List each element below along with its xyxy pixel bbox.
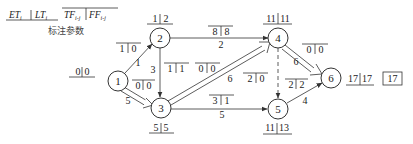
legend-tf: TFi-j [64,10,81,21]
svg-text:0: 0 [211,63,216,74]
svg-text:5: 5 [164,122,169,133]
project-duration-box: 17 [383,72,402,85]
legend: ETi LTi TFi-j FFi-j 标注参数 [6,8,118,36]
node-2: 2 [150,28,170,48]
node-4: 4 [268,28,288,48]
node-2-times: 1 2 [147,13,173,24]
activity-2-3-label: 3 1 1 [151,63,190,75]
svg-text:3: 3 [213,95,218,106]
activity-3-5-label: 3 1 5 [209,95,234,120]
svg-text:3: 3 [158,102,164,114]
legend-et: ETi [8,10,22,21]
svg-text:3: 3 [151,64,156,75]
node-5-times: 11 13 [263,122,292,134]
svg-text:8: 8 [213,26,218,37]
svg-text:6: 6 [228,73,233,84]
svg-text:0: 0 [199,63,204,74]
svg-text:0: 0 [147,80,152,91]
node-1-times: 0 0 [69,66,95,77]
svg-text:2: 2 [219,39,224,50]
svg-text:6: 6 [294,56,299,67]
svg-text:17: 17 [362,73,372,84]
svg-text:1: 1 [153,13,158,24]
node-5: 5 [268,99,288,119]
svg-text:5: 5 [126,95,131,106]
svg-text:2: 2 [300,79,305,90]
svg-text:0: 0 [136,80,141,91]
svg-text:1: 1 [120,43,125,54]
svg-text:17: 17 [388,73,398,84]
svg-text:17: 17 [348,73,358,84]
svg-text:2: 2 [289,79,294,90]
svg-text:1: 1 [225,95,230,106]
svg-text:13: 13 [279,122,289,133]
svg-text:0: 0 [319,44,324,55]
activity-1-2-label: 1 0 1 [116,43,141,68]
svg-text:2: 2 [164,13,169,24]
node-6-times: 17 17 [346,73,374,85]
node-1: 1 [108,71,128,91]
svg-text:11: 11 [265,122,275,133]
legend-ff: FFi-j [88,10,106,21]
svg-text:0: 0 [132,43,137,54]
svg-text:1: 1 [168,63,173,74]
svg-text:1: 1 [115,75,121,87]
network-diagram: ETi LTi TFi-j FFi-j 标注参数 1 [0,0,413,144]
svg-text:0: 0 [76,66,81,77]
node-3: 3 [151,98,171,118]
node-6: 6 [321,68,341,88]
svg-text:1: 1 [180,63,185,74]
svg-text:4: 4 [275,32,281,44]
svg-text:4: 4 [303,95,308,106]
svg-text:0: 0 [260,73,265,84]
svg-text:5: 5 [275,103,281,115]
svg-text:0: 0 [85,66,90,77]
svg-text:6: 6 [328,72,334,84]
svg-text:8: 8 [225,26,230,37]
svg-text:11: 11 [280,13,290,24]
svg-text:2: 2 [248,73,253,84]
svg-text:5: 5 [220,109,225,120]
legend-caption: 标注参数 [48,25,84,36]
svg-text:1: 1 [136,57,141,68]
legend-lt: LTi [34,10,47,21]
svg-text:2: 2 [157,32,163,44]
critical-arrow-4-6 [282,45,322,75]
svg-text:11: 11 [266,13,276,24]
node-4-times: 11 11 [263,13,292,24]
svg-text:0: 0 [307,44,312,55]
activity-4-5-label: 2 0 [243,73,268,84]
node-3-times: 5 5 [149,122,174,133]
svg-text:5: 5 [154,122,159,133]
